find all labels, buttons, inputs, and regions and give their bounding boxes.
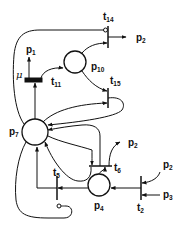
inhibitor-circle-t5	[57, 204, 61, 208]
label-p2-t6: p2	[128, 138, 138, 150]
label-mu: μ	[16, 70, 23, 80]
transition-t11	[25, 78, 42, 82]
place-p10	[64, 51, 86, 73]
label-t11: t11	[51, 77, 61, 89]
label-p3-t2: p3	[163, 190, 173, 202]
label-t6: t6	[114, 163, 121, 175]
inhibitor-circle-t14	[104, 28, 108, 32]
label-t5: t5	[53, 168, 60, 180]
label-t2: t2	[137, 203, 144, 215]
label-t15: t15	[110, 76, 121, 88]
place-p7	[22, 119, 48, 145]
arc-p10-t15	[82, 71, 107, 91]
label-p10: p10	[91, 62, 104, 74]
label-p4: p4	[94, 201, 104, 213]
arc-p2-t2	[142, 172, 160, 183]
arc-p10-t14	[82, 43, 107, 53]
label-p2-t14: p2	[136, 33, 146, 45]
petri-net-diagram	[0, 0, 184, 242]
arc-p7-t5-inhibitor	[15, 142, 71, 218]
place-p4	[88, 174, 110, 196]
label-p1: p1	[26, 45, 36, 57]
label-t14: t14	[103, 12, 114, 24]
label-p2-t2: p2	[163, 160, 173, 172]
arc-p4-t6	[99, 167, 105, 174]
arc-p7-t15	[43, 103, 107, 122]
label-p7: p7	[9, 127, 19, 139]
